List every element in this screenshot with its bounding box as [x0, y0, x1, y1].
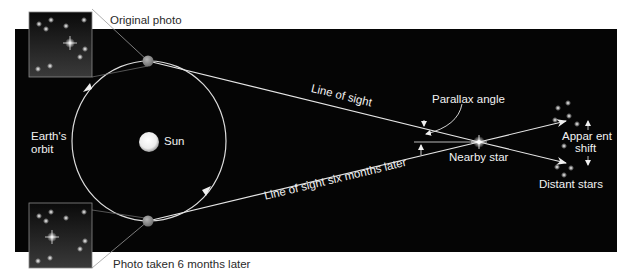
label-original-photo: Original photo: [110, 14, 182, 27]
label-parallax-angle: Parallax angle: [432, 93, 505, 106]
sun-icon: [139, 132, 159, 152]
label-apparent-shift-line2: shift: [575, 142, 596, 155]
label-photo-six-months-later: Photo taken 6 months later: [113, 258, 250, 271]
inset-original-photo: [29, 12, 92, 77]
earth-original-icon: [143, 56, 154, 67]
inset-photo-six-months-later: [29, 203, 92, 268]
label-sun: Sun: [164, 135, 184, 148]
earth-six-months-icon: [143, 216, 154, 227]
label-earths-orbit-line1: Earth's: [31, 130, 66, 143]
label-earths-orbit-line2: orbit: [31, 143, 53, 156]
label-nearby-star: Nearby star: [449, 151, 508, 164]
parallax-diagram: [0, 0, 633, 279]
label-distant-stars: Distant stars: [539, 178, 603, 191]
space-background: [15, 29, 617, 252]
